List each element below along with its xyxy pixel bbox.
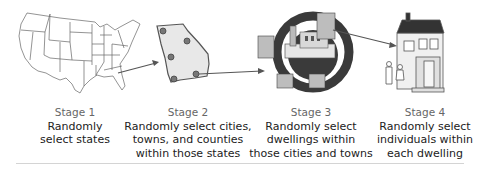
house-with-people-icon [386, 13, 444, 92]
stage-2-line-1: Randomly select cities, [120, 120, 256, 134]
stage-2-caption: Stage 2 Randomly select cities, towns, a… [120, 106, 256, 160]
stage-4-line-1: Randomly select [372, 120, 478, 134]
stage-4-caption: Stage 4 Randomly select individuals with… [372, 106, 478, 160]
stage-4-line-2: individuals within [372, 133, 478, 147]
stage-3-caption: Stage 3 Randomly select dwellings within… [246, 106, 376, 160]
us-map-icon [19, 13, 140, 93]
stage-4-title: Stage 4 [372, 106, 478, 120]
stage-3-line-2: dwellings within [246, 133, 376, 147]
stage-1-line-1: Randomly [20, 120, 130, 134]
bottom-divider [16, 163, 464, 164]
stage-1-line-2: select states [20, 133, 130, 147]
diagram-artwork [0, 0, 478, 104]
stage-2-line-3: within those states [120, 147, 256, 161]
stage-2-line-2: towns, and counties [120, 133, 256, 147]
city-dwellings-circle-icon [258, 13, 349, 88]
stage-3-line-3: those cities and towns [246, 147, 376, 161]
stage-4-line-3: each dwelling [372, 147, 478, 161]
stage-3-line-1: Randomly select [246, 120, 376, 134]
stage-3-title: Stage 3 [246, 106, 376, 120]
stage-1-title: Stage 1 [20, 106, 130, 120]
stage-2-title: Stage 2 [120, 106, 256, 120]
arrow-stage1-to-stage2 [118, 60, 159, 73]
stage-1-caption: Stage 1 Randomly select states [20, 106, 130, 147]
arrow-stage2-to-stage3 [199, 68, 265, 74]
